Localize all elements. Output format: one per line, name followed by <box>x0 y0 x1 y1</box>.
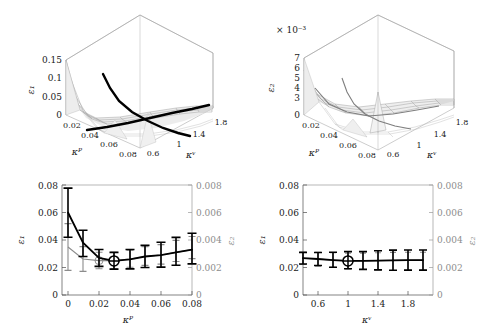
ztick-7: 7 <box>294 53 300 63</box>
xtick-3: 1.8 <box>401 299 416 309</box>
errorbar-kappaV-x-ticks <box>318 291 408 295</box>
xtick-2: 0.06 <box>100 140 118 149</box>
lefty-1: 0.02 <box>279 263 299 273</box>
errorbar-kappaP-ylabel-left: ε₁ <box>15 236 26 245</box>
surface-eps2-z-ticks: 7 6 5 4 3 0 <box>294 53 300 120</box>
errorbar-kappaP-x-ticks <box>68 291 192 295</box>
lefty-2: 0.04 <box>38 235 58 245</box>
svg-text:ε₂: ε₂ <box>265 83 276 92</box>
optimum-marker <box>343 255 354 266</box>
surface-eps1-ylabel: κᵛ <box>185 149 196 160</box>
errorbar-kappaV-svg: 0 0.02 0.04 0.06 0.08 ε₁ 0 0.002 0.004 0… <box>243 167 486 334</box>
righty-4: 0.008 <box>437 181 463 191</box>
righty-3: 0.006 <box>437 208 463 218</box>
errorbar-kappaP-svg: 0 0.02 0.04 0.06 0.08 ε₁ 0 0.002 0.004 0… <box>0 167 243 334</box>
svg-text:ε₂: ε₂ <box>466 236 477 245</box>
surface-eps2-mesh <box>304 58 454 137</box>
ytick-3: 1.8 <box>215 118 228 127</box>
xtick-1: 0.04 <box>320 131 338 140</box>
righty-1: 0.002 <box>196 263 222 273</box>
righty-4: 0.008 <box>196 181 222 191</box>
errorbar-kappaV-xlabel: κᵛ <box>361 314 372 325</box>
lefty-0: 0 <box>52 290 58 300</box>
surface-eps2-zlabel: ε₂ <box>265 83 276 92</box>
errorbar-kappaP-ylabel-right: ε₂ <box>225 236 236 245</box>
errorbar-kappaP-xlabel: κᴾ <box>122 314 134 325</box>
xtick-2: 1.4 <box>371 299 386 309</box>
lefty-1: 0.02 <box>38 263 58 273</box>
lefty-4: 0.08 <box>279 181 299 191</box>
errorbar-kappaP-lefty-ticks <box>62 185 66 295</box>
panel-errorbar-kappaV: 0 0.02 0.04 0.06 0.08 ε₁ 0 0.002 0.004 0… <box>243 167 486 334</box>
lefty-3: 0.06 <box>38 208 58 218</box>
xtick-1: 0.02 <box>89 299 109 309</box>
surface-eps1-z-ticks: 0.15 0.1 0.05 0 <box>42 55 62 120</box>
ytick-3: 1.8 <box>456 118 469 127</box>
ztick-0: 0 <box>294 110 300 120</box>
righty-0: 0 <box>437 290 443 300</box>
errorbar-kappaV-frame <box>303 185 433 295</box>
surface-eps2-svg: × 10⁻³ <box>243 0 486 167</box>
svg-text:ε₁: ε₁ <box>256 236 267 245</box>
xtick-0: 0.6 <box>311 299 326 309</box>
righty-2: 0.004 <box>196 235 222 245</box>
xtick-1: 1 <box>345 299 351 309</box>
surface-eps2-exponent: × 10⁻³ <box>276 25 307 35</box>
panel-errorbar-kappaP: 0 0.02 0.04 0.06 0.08 ε₁ 0 0.002 0.004 0… <box>0 167 243 334</box>
errorbar-kappaV-errorbars-eps1 <box>299 250 427 270</box>
lefty-3: 0.06 <box>279 208 299 218</box>
righty-2: 0.004 <box>437 235 463 245</box>
ytick-1: 1 <box>176 140 181 149</box>
surface-eps1-xlabel: κᴾ <box>71 146 83 157</box>
ytick-1: 1 <box>416 141 421 150</box>
ytick-2: 1.4 <box>193 130 206 139</box>
lefty-4: 0.08 <box>38 181 58 191</box>
lefty-2: 0.04 <box>279 235 299 245</box>
xtick-4: 0.08 <box>182 299 202 309</box>
svg-text:ε₂: ε₂ <box>225 236 236 245</box>
svg-text:ε₁: ε₁ <box>25 86 36 95</box>
ztick-2: 0.05 <box>42 92 62 102</box>
panel-surface-eps2: × 10⁻³ <box>243 0 486 167</box>
xtick-3: 0.08 <box>358 151 376 160</box>
errorbar-kappaV-righty-ticks <box>429 185 433 295</box>
surface-eps2-ylabel: κᵛ <box>426 149 437 160</box>
xtick-2: 0.06 <box>339 141 357 150</box>
ztick-5: 5 <box>294 73 300 83</box>
xtick-0: 0.02 <box>302 121 320 130</box>
surface-eps2-xlabel: κᴾ <box>308 147 320 158</box>
surface-eps1-svg: 0.15 0.1 0.05 0 ε₁ 0.02 0.04 0.06 0.08 κ… <box>0 0 243 167</box>
errorbar-kappaV-lefty-ticks <box>303 185 307 295</box>
ytick-0: 0.6 <box>387 150 400 159</box>
errorbar-kappaV-frame-right <box>303 185 433 295</box>
xtick-2: 0.04 <box>120 299 140 309</box>
righty-3: 0.006 <box>196 208 222 218</box>
ytick-0: 0.6 <box>147 149 160 158</box>
xtick-3: 0.06 <box>151 299 171 309</box>
errorbar-kappaV-ylabel-right: ε₂ <box>466 236 477 245</box>
optimum-marker <box>109 255 120 266</box>
surface-eps1-zlabel: ε₁ <box>25 86 36 95</box>
svg-text:ε₁: ε₁ <box>15 236 26 245</box>
figure-root: 0.15 0.1 0.05 0 ε₁ 0.02 0.04 0.06 0.08 κ… <box>0 0 486 334</box>
ztick-6: 6 <box>294 63 300 73</box>
ztick-3: 0 <box>56 110 62 120</box>
xtick-3: 0.08 <box>119 150 137 159</box>
ytick-2: 1.4 <box>434 130 447 139</box>
errorbar-kappaV-ylabel-left: ε₁ <box>256 236 267 245</box>
lefty-0: 0 <box>293 290 299 300</box>
xtick-0: 0 <box>65 299 71 309</box>
xtick-1: 0.04 <box>81 131 99 140</box>
xtick-0: 0.02 <box>63 121 81 130</box>
ztick-4: 4 <box>294 83 300 93</box>
panel-surface-eps1: 0.15 0.1 0.05 0 ε₁ 0.02 0.04 0.06 0.08 κ… <box>0 0 243 167</box>
errorbar-kappaP-errorbars-eps1 <box>64 188 197 269</box>
ztick-1: 0.1 <box>48 73 62 83</box>
ztick-0: 0.15 <box>42 55 62 65</box>
righty-1: 0.002 <box>437 263 463 273</box>
ztick-3: 3 <box>294 93 300 103</box>
